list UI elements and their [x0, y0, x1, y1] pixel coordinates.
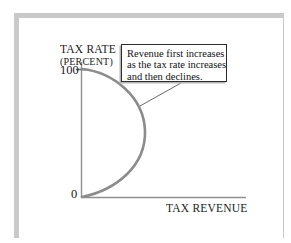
annotation-line-1: Revenue first increases — [127, 48, 222, 59]
plot-area: TAX RATE (PERCENT) 100 0 TAX REVENUE Rev… — [0, 0, 291, 243]
x-axis-title: TAX REVENUE — [166, 202, 247, 214]
annotation-line-2: as the tax rate increases — [127, 59, 222, 70]
y-tick-label-0: 0 — [71, 187, 77, 202]
y-tick-label-100: 100 — [60, 63, 79, 78]
annotation-leader-line — [140, 83, 181, 106]
y-axis-title: TAX RATE — [60, 43, 116, 55]
figure-root: TAX RATE (PERCENT) 100 0 TAX REVENUE Rev… — [0, 0, 291, 243]
annotation-line-3: and then declines. — [127, 71, 222, 82]
laffer-curve — [82, 69, 145, 197]
annotation-callout-box: Revenue first increases as the tax rate … — [121, 44, 227, 82]
